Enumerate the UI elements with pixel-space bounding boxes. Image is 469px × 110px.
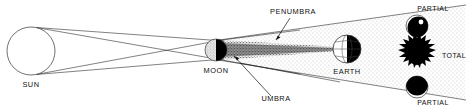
total-label: TOTAL [442, 52, 466, 59]
sun-disc [7, 27, 55, 75]
ray-top-to-moon-bottom [36, 28, 222, 61]
earth-label: EARTH [333, 67, 360, 76]
solar-eclipse-diagram: SUN MOON EARTH [0, 0, 469, 110]
partial-top-highlight [419, 20, 424, 25]
partial-top-label: PARTIAL [417, 5, 449, 12]
penumbra-label: PENUMBRA [270, 7, 316, 16]
sun-label: SUN [22, 80, 39, 89]
sun-body [7, 27, 55, 75]
moon-label: MOON [204, 66, 229, 75]
partial-bottom-label: PARTIAL [417, 99, 449, 106]
eclipse-diagram-canvas: SUN MOON EARTH [0, 0, 469, 110]
ray-bottom-to-moon-top [36, 40, 222, 75]
ray-bottom-to-moon-bottom [36, 59, 224, 75]
ray-top-to-moon-top [36, 28, 224, 42]
umbra-label: UMBRA [261, 94, 290, 103]
total-disc [407, 45, 427, 65]
